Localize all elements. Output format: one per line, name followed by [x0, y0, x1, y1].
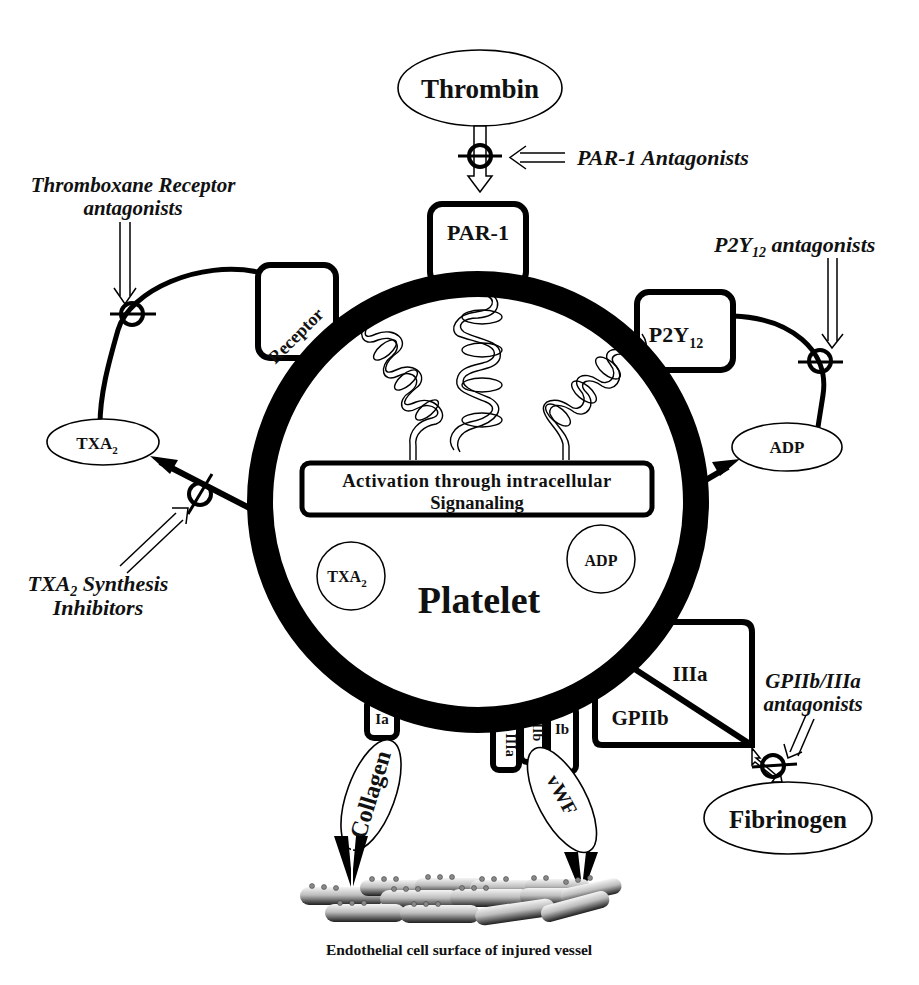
endothelial-caption: Endothelial cell surface of injured vess…: [326, 941, 593, 958]
fibrinogen-label: Fibrinogen: [729, 806, 847, 833]
p2y12-antagonist-arrow: [822, 258, 843, 348]
txa2-external-node: TXA2: [47, 419, 159, 465]
intracellular-signaling-box: Activation through intracellular Signana…: [302, 463, 652, 515]
tx-receptor-antagonists-line2: antagonists: [83, 196, 182, 220]
ib-label: Ib: [555, 721, 569, 737]
adp-internal-node: ADP: [567, 525, 635, 593]
gp-antagonists-line1: GPIIb/IIIa: [765, 669, 861, 693]
p2y12-antagonists-label: P2Y12 antagonists: [713, 232, 875, 260]
adp-internal-label: ADP: [585, 552, 618, 569]
svg-text:TXA2: TXA2: [76, 434, 118, 456]
gpiib-label: GPIIb: [611, 706, 668, 730]
tx-receptor-antagonist-arrow: [114, 222, 136, 304]
txa2-synthesis-label-line2: Inhibitors: [52, 595, 144, 620]
txa2-external-label: TXA: [76, 434, 113, 453]
thrombin-node: Thrombin: [398, 50, 562, 126]
par1-antagonist-arrow: [510, 146, 565, 169]
gp-antagonists-line2: antagonists: [763, 692, 862, 716]
fibrinogen-node: Fibrinogen: [704, 782, 872, 854]
iiia-label: IIIa: [672, 662, 708, 686]
signaling-line2: Signanaling: [430, 493, 524, 513]
par1-antagonists-label: PAR-1 Antagonists: [576, 145, 749, 170]
adp-external-label: ADP: [770, 438, 805, 457]
tx-feedback-loop: [100, 269, 258, 425]
thrombin-label: Thrombin: [421, 74, 539, 104]
tx-receptor-antagonists-line1: Thromboxane Receptor: [31, 173, 237, 197]
par1-label: PAR-1: [447, 220, 509, 245]
platelet-pathway-diagram: Thrombin PAR-1 Antagonists PAR-1 Recepto…: [0, 0, 919, 985]
platelet-label: Platelet: [418, 579, 541, 621]
txa2-internal-node: TXA2: [317, 542, 385, 610]
adp-external-node: ADP: [732, 423, 842, 471]
endothelial-cells: [300, 875, 623, 927]
thrombin-to-par1-arrow: [468, 126, 492, 192]
p2y12-feedback-loop: [733, 316, 824, 435]
iiia-small-label: IIIa: [503, 733, 518, 756]
signaling-line1: Activation through intracellular: [342, 471, 612, 491]
gp-antagonist-arrow: [784, 715, 814, 758]
txa2-synthesis-inhibitor-arrow: [120, 508, 188, 573]
